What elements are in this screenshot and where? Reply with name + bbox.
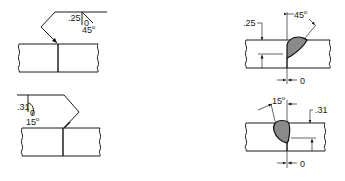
- figure-bottom-right: 15 o .31 0: [245, 95, 327, 169]
- break-line-left: [245, 40, 246, 68]
- degree-mark: o: [304, 9, 308, 15]
- groove-angle-label: 15: [272, 96, 282, 106]
- figure-top-right: 45 o .25 0: [243, 9, 331, 86]
- arrow-leader: [64, 95, 79, 128]
- bevel-extension: [271, 104, 275, 121]
- break-line-right: [99, 128, 100, 156]
- groove-depth-label: .25: [68, 13, 81, 23]
- bevel-extension: [305, 25, 316, 38]
- degree-mark: o: [92, 24, 96, 30]
- groove-depth-label: .25: [243, 18, 256, 28]
- weld-drawing: .25 0 45 o 45 o .25 0: [0, 0, 345, 181]
- break-line-right: [329, 40, 330, 68]
- break-line-right: [97, 44, 98, 72]
- figure-bottom-left: .31 0 15 o: [17, 95, 101, 156]
- break-line-left: [21, 128, 22, 156]
- groove-depth-label: .31: [17, 102, 30, 112]
- groove-angle-label: 45: [82, 25, 92, 35]
- groove-depth-label: .31: [315, 105, 328, 115]
- angle-arrow-right: [309, 19, 315, 25]
- weld-bead: [274, 121, 290, 144]
- degree-mark: o: [282, 95, 286, 101]
- root-opening-label: 0: [300, 76, 305, 86]
- break-line-right: [324, 123, 325, 151]
- figure-top-left: .25 0 45 o: [18, 12, 107, 72]
- degree-mark: o: [36, 116, 40, 122]
- weld-bead: [287, 37, 307, 58]
- groove-angle-label: 15: [26, 117, 36, 127]
- angle-arrow-left: [258, 104, 272, 110]
- groove-angle-label: 45: [294, 10, 304, 20]
- break-line-left: [245, 123, 246, 151]
- break-line-left: [18, 44, 19, 72]
- root-opening-label: 0: [300, 159, 305, 169]
- arrow-leader: [41, 12, 57, 43]
- arrowhead: [64, 122, 70, 128]
